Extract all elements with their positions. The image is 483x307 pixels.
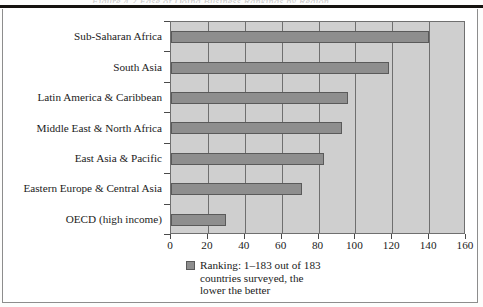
- category-label: Latin America & Caribbean: [0, 91, 162, 103]
- category-label: OECD (high income): [0, 213, 162, 225]
- page-canvas: Figure 4.2 Ease of Doing Business Rankin…: [0, 0, 483, 307]
- x-tick-label: 120: [371, 239, 411, 251]
- category-label: Eastern Europe & Central Asia: [0, 182, 162, 194]
- bar-chart: Sub-Saharan AfricaSouth AsiaLatin Americ…: [0, 9, 483, 303]
- bar-row: [171, 22, 464, 52]
- bar[interactable]: [171, 31, 429, 43]
- y-tick: [164, 234, 170, 235]
- y-tick: [164, 204, 170, 205]
- chart-legend: Ranking: 1–183 out of 183countries surve…: [186, 259, 321, 297]
- legend-line: lower the better: [200, 284, 321, 297]
- category-label: East Asia & Pacific: [0, 152, 162, 164]
- bar-row: [171, 113, 464, 143]
- y-tick: [164, 173, 170, 174]
- y-tick: [164, 143, 170, 144]
- y-tick: [164, 82, 170, 83]
- x-tick-label: 160: [445, 239, 483, 251]
- page-top-rule: [0, 5, 483, 8]
- legend-line: countries surveyed, the: [200, 272, 321, 285]
- category-axis: Sub-Saharan AfricaSouth AsiaLatin Americ…: [0, 21, 170, 234]
- x-tick-label: 40: [224, 239, 264, 251]
- clipped-caption-above-rule: Figure 4.2 Ease of Doing Business Rankin…: [92, 0, 392, 3]
- y-tick: [164, 112, 170, 113]
- bar-row: [171, 205, 464, 235]
- y-tick: [164, 51, 170, 52]
- x-tick-label: 140: [408, 239, 448, 251]
- category-label: Sub-Saharan Africa: [0, 30, 162, 42]
- bar[interactable]: [171, 122, 342, 134]
- bar[interactable]: [171, 153, 324, 165]
- y-tick: [164, 21, 170, 22]
- category-label: South Asia: [0, 61, 162, 73]
- x-tick-label: 20: [187, 239, 227, 251]
- x-tick-label: 0: [150, 239, 190, 251]
- bar[interactable]: [171, 214, 226, 226]
- bar[interactable]: [171, 92, 348, 104]
- bar-row: [171, 83, 464, 113]
- category-label: Middle East & North Africa: [0, 122, 162, 134]
- legend-line: Ranking: 1–183 out of 183: [200, 259, 321, 272]
- bar[interactable]: [171, 62, 389, 74]
- bar-row: [171, 144, 464, 174]
- bar-row: [171, 174, 464, 204]
- bar[interactable]: [171, 183, 302, 195]
- bar-row: [171, 52, 464, 82]
- legend-label: Ranking: 1–183 out of 183countries surve…: [200, 259, 321, 297]
- plot-area: [170, 21, 465, 234]
- legend-swatch-icon: [186, 261, 195, 270]
- x-tick-label: 100: [334, 239, 374, 251]
- x-tick-label: 60: [261, 239, 301, 251]
- x-tick-label: 80: [298, 239, 338, 251]
